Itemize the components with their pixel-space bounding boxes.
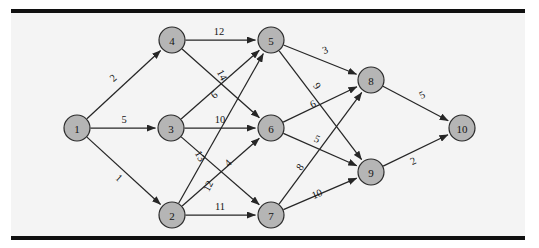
figure-page: 25112146101341211396581052 12345678910 xyxy=(0,0,539,248)
node-label: 10 xyxy=(457,123,469,135)
edge-weight-label: 5 xyxy=(312,133,321,145)
graph-node[interactable]: 10 xyxy=(449,115,475,141)
edge-weight-label: 4 xyxy=(222,157,234,169)
graph-edge xyxy=(279,51,361,160)
node-label: 5 xyxy=(268,35,274,47)
edge-weight-label: 11 xyxy=(215,201,225,212)
node-label: 4 xyxy=(169,35,175,47)
node-label: 2 xyxy=(169,210,175,222)
edge-weight-label: 12 xyxy=(214,26,225,37)
graph-node[interactable]: 5 xyxy=(258,27,284,53)
graph-edge xyxy=(284,45,357,74)
graph-node[interactable]: 2 xyxy=(159,202,185,228)
node-label: 3 xyxy=(168,123,174,135)
graph-node[interactable]: 6 xyxy=(258,115,284,141)
node-label: 6 xyxy=(268,123,274,135)
graph-node[interactable]: 8 xyxy=(358,67,384,93)
edge-weight-label: 12 xyxy=(201,179,216,193)
edge-weight-label: 9 xyxy=(311,81,323,92)
edge-weight-label: 2 xyxy=(408,155,418,167)
edge-weight-label: 5 xyxy=(417,89,427,101)
edge-weight-label: 3 xyxy=(321,44,330,56)
directed-graph: 25112146101341211396581052 12345678910 xyxy=(0,0,539,248)
graph-edge xyxy=(87,137,161,204)
edge-weight-label: 10 xyxy=(215,114,226,125)
edge-weight-label: 1 xyxy=(113,172,124,184)
edge-weight-label: 2 xyxy=(107,72,118,84)
node-label: 8 xyxy=(368,75,374,87)
node-label: 1 xyxy=(74,123,80,135)
graph-node[interactable]: 3 xyxy=(158,115,184,141)
node-label: 7 xyxy=(268,210,274,222)
graph-edge xyxy=(181,137,259,205)
graph-node[interactable]: 1 xyxy=(64,115,90,141)
graph-node[interactable]: 7 xyxy=(258,202,284,228)
graph-edge xyxy=(383,86,448,120)
edge-weight-label: 10 xyxy=(310,187,324,201)
edge-weight-label: 13 xyxy=(193,149,208,163)
graph-edge xyxy=(283,87,357,122)
graph-edge xyxy=(181,50,259,119)
graph-node[interactable]: 9 xyxy=(358,159,384,185)
graph-edge xyxy=(279,92,362,204)
graph-node[interactable]: 4 xyxy=(159,27,185,53)
graph-edge xyxy=(87,51,161,119)
node-label: 9 xyxy=(368,167,374,179)
bottom-rule xyxy=(11,236,525,240)
edge-weight-label: 5 xyxy=(121,114,126,125)
